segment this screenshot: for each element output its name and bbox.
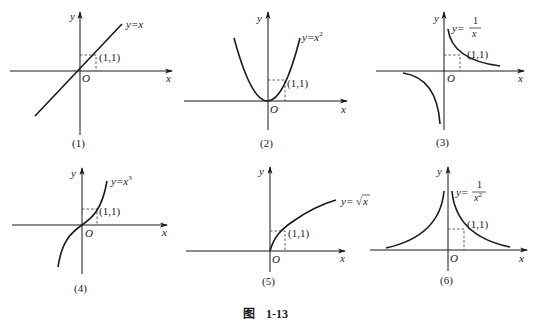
panel-label: (5) — [262, 275, 275, 288]
panel-label: (4) — [74, 282, 87, 295]
point-guide-lines — [444, 55, 460, 71]
function-label: y=x2 — [301, 30, 323, 43]
svg-text:x2: x2 — [473, 191, 482, 203]
curve-y-equals-x — [35, 24, 122, 116]
figure-caption: 图 1-13 — [243, 307, 288, 321]
caption-number: 1-13 — [266, 307, 288, 321]
caption-prefix: 图 — [243, 307, 255, 321]
origin-label: O — [85, 227, 93, 239]
svg-text:x: x — [362, 195, 368, 207]
function-label: y= 1 x2 — [455, 179, 486, 203]
y-axis-label: y — [433, 12, 439, 24]
svg-text:y=: y= — [340, 195, 353, 207]
svg-text:x: x — [471, 28, 477, 39]
panel-2-quadratic: y x O (1,1) y=x2 (2) — [184, 12, 347, 150]
svg-text:√: √ — [356, 195, 363, 207]
svg-text:1: 1 — [477, 179, 482, 190]
point-label: (1,1) — [467, 218, 488, 231]
x-axis-label: x — [340, 103, 346, 115]
curve-y-equals-sqrt-x — [270, 200, 336, 251]
y-axis-label: y — [436, 165, 442, 177]
point-label: (1,1) — [288, 227, 309, 240]
origin-label: O — [270, 103, 278, 115]
origin-label: O — [447, 72, 455, 84]
panel-6-inverse-square: y x O (1,1) y= 1 x2 (6) — [370, 165, 527, 287]
svg-text:y=: y= — [451, 22, 464, 34]
x-axis-label: x — [339, 252, 345, 264]
function-label: y= 1 x — [451, 15, 481, 39]
function-label: y= √ x — [340, 195, 370, 207]
panel-label: (6) — [440, 274, 453, 287]
panel-4-cubic: y x O (1,1) y=x3 (4) — [12, 167, 167, 295]
function-label: y=x — [125, 18, 143, 30]
panel-3-reciprocal: y x O (1,1) y= 1 x (3) — [376, 12, 524, 149]
origin-label: O — [450, 252, 458, 264]
panel-label: (2) — [260, 137, 273, 150]
panel-label: (3) — [436, 136, 449, 149]
point-guide-lines — [268, 80, 285, 101]
point-label: (1,1) — [467, 48, 488, 61]
y-axis-label: y — [256, 12, 262, 24]
origin-label: O — [82, 72, 90, 84]
y-axis-label: y — [70, 167, 76, 179]
x-axis-label: x — [518, 252, 524, 264]
point-label: (1,1) — [287, 77, 308, 90]
panel-1-linear: y x O (1,1) y=x (1) — [10, 10, 172, 150]
panel-label: (1) — [72, 137, 85, 150]
point-label: (1,1) — [99, 205, 120, 218]
panel-5-square-root: y x O (1,1) y= √ x (5) — [186, 165, 370, 288]
y-axis-label: y — [69, 10, 75, 22]
curve-branch-left — [386, 191, 444, 248]
function-label: y=x3 — [110, 174, 132, 187]
y-axis-label: y — [258, 165, 264, 177]
curve-y-equals-x-squared — [234, 38, 300, 101]
point-label: (1,1) — [99, 51, 120, 64]
svg-text:y=: y= — [455, 186, 468, 198]
point-guide-lines — [448, 229, 464, 250]
curve-branch-negative — [403, 73, 440, 124]
x-axis-label: x — [165, 72, 171, 84]
x-axis-label: x — [517, 72, 523, 84]
svg-text:1: 1 — [473, 15, 478, 26]
origin-label: O — [272, 253, 280, 265]
x-axis-label: x — [161, 226, 167, 238]
point-guide-lines — [80, 55, 96, 71]
power-function-graphs-figure: y x O (1,1) y=x (1) y x O (1,1) y=x2 (2)… — [0, 0, 536, 325]
